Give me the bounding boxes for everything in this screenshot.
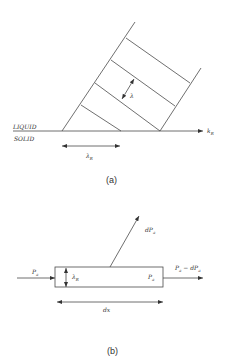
dx-label: dx xyxy=(103,306,111,313)
lambda-r-height-label: λR xyxy=(71,273,79,282)
k-r-label: kR xyxy=(207,127,214,136)
p-out-label: Pa − dPa xyxy=(174,264,201,273)
panel-b: Pa λR Pa Pa − dPa dPa dx (b) xyxy=(17,216,203,356)
dp-loss-arrow xyxy=(110,216,139,267)
caption-a: (a) xyxy=(106,175,117,185)
lambda-label: λ xyxy=(129,92,134,99)
lamella-stripe-3 xyxy=(111,60,175,106)
lamella-stripe-1 xyxy=(81,105,121,131)
solid-label: SOLID xyxy=(14,135,34,142)
p-in-label: Pa xyxy=(31,268,39,277)
dp-label: dPa xyxy=(145,226,156,235)
caption-b: (b) xyxy=(107,346,118,356)
panel-a: LIQUID SOLID λ λR kR (a) xyxy=(12,22,214,185)
p-inside-label: Pa xyxy=(147,273,155,282)
lamella-left-boundary xyxy=(62,22,135,131)
liquid-label: LIQUID xyxy=(12,123,37,130)
diagram-canvas: LIQUID SOLID λ λR kR (a) Pa λR Pa Pa − d… xyxy=(0,0,226,356)
lamella-stripe-4 xyxy=(126,38,190,83)
lambda-r-label: λR xyxy=(85,152,93,161)
